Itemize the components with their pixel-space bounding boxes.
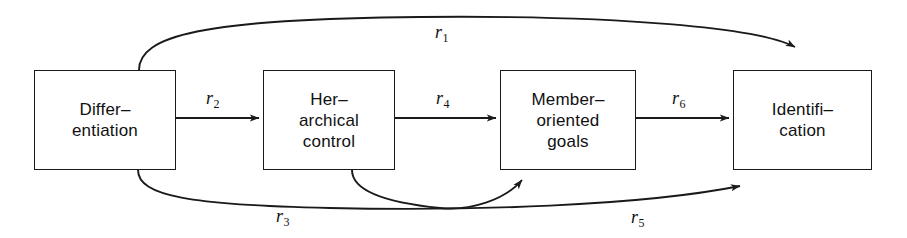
edge-label-r6-subscript: 6 bbox=[680, 97, 686, 111]
edge-label-r2: r2 bbox=[206, 88, 219, 109]
node-member-oriented-goals-line3: goals bbox=[547, 131, 589, 152]
node-hierarchical-control-line1: Her– bbox=[310, 89, 348, 110]
node-identification[interactable]: Identifi– cation bbox=[733, 70, 872, 170]
edge-label-r1: r1 bbox=[435, 22, 448, 43]
node-member-oriented-goals-line1: Member– bbox=[531, 89, 604, 110]
edge-label-r6: r6 bbox=[672, 88, 685, 109]
edge-label-r2-symbol: r bbox=[206, 88, 213, 108]
node-hierarchical-control-line3: control bbox=[303, 131, 355, 152]
node-identification-line1: Identifi– bbox=[772, 99, 833, 120]
edge-label-r4: r4 bbox=[436, 88, 449, 109]
edge-label-r2-subscript: 2 bbox=[214, 97, 220, 111]
edge-r5-path bbox=[352, 170, 522, 208]
node-differentiation-line1: Differ– bbox=[79, 99, 130, 120]
edge-r3-path bbox=[138, 170, 740, 209]
node-hierarchical-control-line2: archical bbox=[299, 110, 359, 131]
edge-label-r6-symbol: r bbox=[672, 88, 679, 108]
edge-label-r4-subscript: 4 bbox=[444, 97, 450, 111]
edge-label-r5-subscript: 5 bbox=[639, 216, 645, 230]
node-identification-line2: cation bbox=[779, 120, 826, 141]
edge-label-r3-symbol: r bbox=[276, 206, 283, 226]
edge-label-r4-symbol: r bbox=[436, 88, 443, 108]
edge-r1-path bbox=[139, 17, 795, 70]
node-differentiation-line2: entiation bbox=[72, 120, 138, 141]
node-member-oriented-goals[interactable]: Member– oriented goals bbox=[500, 70, 636, 170]
edge-label-r3-subscript: 3 bbox=[284, 215, 290, 229]
edge-label-r1-symbol: r bbox=[435, 22, 442, 42]
node-hierarchical-control[interactable]: Her– archical control bbox=[263, 70, 395, 170]
edge-label-r5-symbol: r bbox=[631, 207, 638, 227]
edge-label-r1-subscript: 1 bbox=[443, 31, 449, 45]
edge-label-r3: r3 bbox=[276, 206, 289, 227]
node-differentiation[interactable]: Differ– entiation bbox=[34, 70, 176, 170]
path-diagram: Differ– entiation Her– archical control … bbox=[0, 0, 907, 238]
edge-label-r5: r5 bbox=[631, 207, 644, 228]
node-member-oriented-goals-line2: oriented bbox=[536, 110, 599, 131]
